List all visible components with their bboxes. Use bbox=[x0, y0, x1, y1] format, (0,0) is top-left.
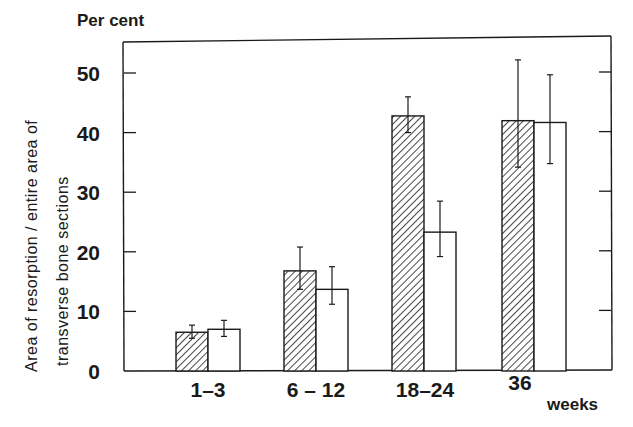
y-tick-label: 40 bbox=[77, 122, 100, 145]
bars bbox=[176, 60, 566, 371]
y-axis-title-line-2: transverse bone sections bbox=[54, 176, 71, 366]
bar-group-36 bbox=[502, 60, 566, 371]
top-border bbox=[123, 36, 611, 42]
x-tick-label: 36 bbox=[508, 371, 531, 394]
y-tick-label: 10 bbox=[77, 300, 100, 323]
bar-group-6-12 bbox=[284, 247, 348, 371]
x-tick-label: 18–24 bbox=[396, 378, 455, 401]
y-tick-label: 50 bbox=[77, 62, 100, 85]
y-axis-title: Area of resorption / entire area of tran… bbox=[23, 120, 71, 372]
bar-chart: Per cent Area of resorption / entire are… bbox=[0, 0, 633, 427]
bar-hatched bbox=[392, 116, 424, 371]
y-axis-right bbox=[611, 36, 612, 370]
y-tick-label: 30 bbox=[77, 181, 100, 204]
bar-group-1-3 bbox=[176, 320, 240, 371]
y-axis-left bbox=[123, 42, 124, 371]
y-tick-label: 20 bbox=[77, 241, 100, 264]
x-tick-labels: 1–36 – 1218–2436 bbox=[190, 371, 531, 401]
x-tick-label: 6 – 12 bbox=[287, 378, 345, 401]
x-axis-unit-label: weeks bbox=[546, 395, 598, 414]
bar-group-18-24 bbox=[392, 97, 456, 371]
y-unit-label: Per cent bbox=[77, 11, 144, 30]
y-axis-title-line-1: Area of resorption / entire area of bbox=[23, 120, 40, 372]
y-tick-label: 0 bbox=[88, 360, 100, 383]
x-tick-label: 1–3 bbox=[190, 378, 225, 401]
